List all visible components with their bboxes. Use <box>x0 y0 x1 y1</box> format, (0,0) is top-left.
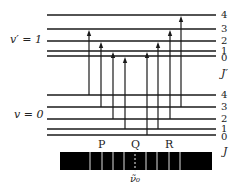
arrowhead-icon <box>87 30 91 36</box>
diagram-canvas <box>0 0 238 196</box>
arrowhead-icon <box>156 42 160 48</box>
branch-label-R: R <box>165 139 173 150</box>
lower-J-label: 4 <box>221 90 227 100</box>
arrowhead-icon <box>168 30 172 36</box>
upper-J-label: 0 <box>221 53 227 63</box>
arrowhead-icon <box>123 57 127 63</box>
band-origin-label: ν̃₀ <box>130 174 140 184</box>
lower-vibrational-state-label: v = 0 <box>14 109 43 120</box>
branch-label-P: P <box>98 139 105 150</box>
upper-J-label: 3 <box>221 24 227 34</box>
arrowhead-icon <box>145 52 149 58</box>
lower-J-label: 3 <box>221 102 227 112</box>
lower-J-axis-label: J <box>223 146 227 157</box>
branch-label-Q: Q <box>131 139 140 150</box>
arrowhead-icon <box>179 16 183 22</box>
arrowhead-icon <box>99 42 103 48</box>
rovibrational-energy-level-diagram: v′ = 1 v = 0 J′ J 43210 43210 PQR ν̃₀ <box>0 0 238 196</box>
upper-vibrational-state-label: v′ = 1 <box>10 34 42 45</box>
lower-J-label: 0 <box>221 132 227 142</box>
arrowhead-icon <box>111 52 115 58</box>
upper-J-label: 4 <box>221 10 227 20</box>
spectrum-bar <box>60 152 212 170</box>
upper-J-axis-label: J′ <box>221 68 228 79</box>
